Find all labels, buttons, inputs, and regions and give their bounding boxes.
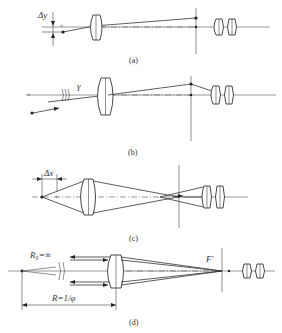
r-label: R=1/φ	[51, 293, 76, 303]
panel-d: R₀=∞ F′ R=1/φ (d)	[8, 248, 275, 327]
ray	[63, 18, 196, 32]
panel-a: Δy × (a)	[37, 8, 270, 65]
focus-label: F′	[205, 254, 214, 264]
caption-b: (b)	[128, 148, 138, 157]
optical-diagram: Δy × (a) × γ	[0, 0, 282, 333]
cross-mark: ×	[60, 23, 63, 29]
panel-c: Δx × (c)	[32, 165, 248, 243]
objective-lens	[81, 179, 96, 215]
r0-label: R₀=∞	[29, 250, 51, 260]
svg-text:×: ×	[27, 92, 30, 98]
ray	[108, 84, 191, 95]
caption-d: (d)	[129, 318, 139, 327]
delta-x-label: Δx	[43, 168, 53, 178]
svg-text:×: ×	[55, 194, 58, 200]
caption-a: (a)	[129, 56, 138, 65]
gamma-label: γ	[77, 81, 81, 91]
direction-arrow	[33, 108, 59, 113]
panel-b: × γ (b)	[26, 76, 276, 157]
caption-c: (c)	[129, 234, 138, 243]
delta-y-label: Δy	[37, 10, 47, 20]
